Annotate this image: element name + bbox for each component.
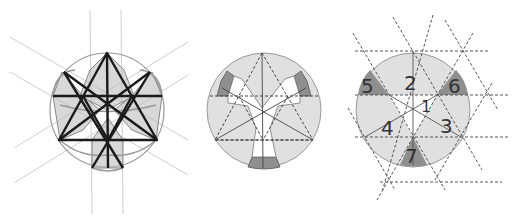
label-4: 4 [381,116,394,140]
label-5: 5 [361,74,374,98]
middle-panel [207,53,321,169]
right-panel: 1 2 3 4 5 6 7 [348,15,510,200]
figure-canvas: 1 2 3 4 5 6 7 [0,0,516,218]
label-7: 7 [405,144,418,168]
left-panel [10,10,188,214]
label-6: 6 [448,74,461,98]
label-3: 3 [440,114,453,138]
label-2: 2 [404,71,417,95]
label-1: 1 [421,97,431,116]
